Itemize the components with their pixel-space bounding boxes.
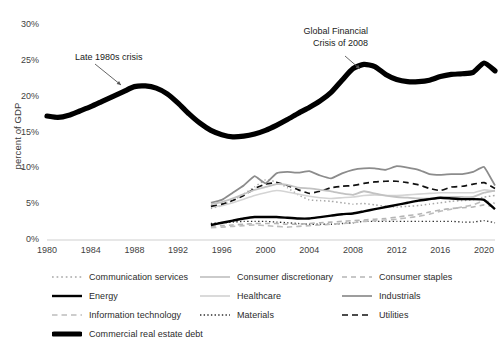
legend-line-swatch-icon xyxy=(52,309,82,321)
x-tick-label: 1992 xyxy=(158,245,198,255)
legend-line-swatch-icon xyxy=(52,271,82,283)
series-line xyxy=(211,221,495,225)
legend-line-swatch-icon xyxy=(52,290,82,302)
legend-label: Energy xyxy=(89,291,118,301)
x-tick-label: 2000 xyxy=(246,245,286,255)
legend-line-swatch-icon xyxy=(342,309,372,321)
y-tick-label: 30% xyxy=(9,19,39,29)
legend-item[interactable]: Healthcare xyxy=(200,289,281,303)
legend-line-swatch-icon xyxy=(342,271,372,283)
series-line xyxy=(211,198,495,225)
legend-label: Industrials xyxy=(379,291,421,301)
y-tick-label: 10% xyxy=(9,162,39,172)
x-tick-label: 2012 xyxy=(377,245,417,255)
chart-annotation: Late 1980s crisis xyxy=(75,52,143,64)
legend-item[interactable]: Materials xyxy=(200,308,274,322)
x-tick-label: 2004 xyxy=(289,245,329,255)
x-tick-label: 2008 xyxy=(333,245,373,255)
legend-item[interactable]: Energy xyxy=(52,289,118,303)
legend-label: Consumer staples xyxy=(379,272,452,282)
x-tick-label: 1984 xyxy=(71,245,111,255)
legend-item[interactable]: Information technology xyxy=(52,308,181,322)
legend-label: Commercial real estate debt xyxy=(89,329,203,339)
legend-line-swatch-icon xyxy=(342,290,372,302)
annotation-arrow xyxy=(95,64,121,85)
x-tick-label: 1988 xyxy=(114,245,154,255)
legend-label: Materials xyxy=(237,310,274,320)
legend-item[interactable]: Commercial real estate debt xyxy=(52,327,203,341)
y-tick-label: 0% xyxy=(9,234,39,244)
x-tick-label: 2020 xyxy=(464,245,500,255)
legend-item[interactable]: Utilities xyxy=(342,308,408,322)
legend-line-swatch-icon xyxy=(200,309,230,321)
chart-annotation: Global FinancialCrisis of 2008 xyxy=(284,26,368,49)
annotation-line: Global Financial xyxy=(284,26,368,38)
y-tick-label: 25% xyxy=(9,55,39,65)
series-line xyxy=(47,63,495,137)
y-tick-label: 5% xyxy=(9,198,39,208)
legend-item[interactable]: Consumer discretionary xyxy=(200,270,333,284)
legend-line-swatch-icon xyxy=(52,328,82,340)
legend-label: Utilities xyxy=(379,310,408,320)
chart-figure: percent of GDP 0%5%10%15%20%25%30% 19801… xyxy=(0,0,500,351)
legend-line-swatch-icon xyxy=(200,271,230,283)
legend-line-swatch-icon xyxy=(200,290,230,302)
y-tick-label: 20% xyxy=(9,91,39,101)
series-line xyxy=(211,181,495,206)
annotation-line: Late 1980s crisis xyxy=(75,52,143,64)
legend-item[interactable]: Industrials xyxy=(342,289,421,303)
legend-label: Information technology xyxy=(89,310,181,320)
legend-label: Healthcare xyxy=(237,291,281,301)
x-tick-label: 1996 xyxy=(202,245,242,255)
legend-label: Consumer discretionary xyxy=(237,272,333,282)
annotation-line: Crisis of 2008 xyxy=(284,38,368,50)
x-tick-label: 2016 xyxy=(420,245,460,255)
chart-legend: Communication servicesConsumer discretio… xyxy=(52,270,492,348)
y-tick-label: 15% xyxy=(9,127,39,137)
legend-item[interactable]: Consumer staples xyxy=(342,270,452,284)
x-tick-label: 1980 xyxy=(27,245,67,255)
legend-label: Communication services xyxy=(89,272,188,282)
legend-item[interactable]: Communication services xyxy=(52,270,188,284)
